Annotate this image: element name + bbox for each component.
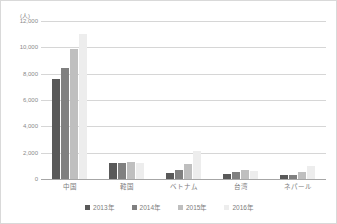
bar (241, 170, 249, 179)
y-axis-tick-label: 6,000 (23, 97, 38, 103)
bar-group (155, 21, 212, 179)
bar (193, 151, 201, 179)
x-axis-category-labels: 中国韓国ベトナム台湾ネパール (41, 181, 326, 191)
x-axis-category-label: 台湾 (212, 181, 269, 191)
legend-item[interactable]: 2015年 (178, 202, 207, 212)
legend-label: 2015年 (186, 202, 207, 212)
x-axis-category-label: 中国 (41, 181, 98, 191)
bar-group (269, 21, 326, 179)
bar-group (98, 21, 155, 179)
legend-label: 2016年 (232, 202, 253, 212)
bar (289, 175, 297, 179)
bar (298, 172, 306, 179)
x-axis-category-label: ベトナム (155, 181, 212, 191)
bar (109, 163, 117, 179)
x-axis-category-label: ネパール (269, 181, 326, 191)
y-axis-tick-label: 0 (35, 176, 38, 182)
bar (307, 166, 315, 179)
legend-item[interactable]: 2014年 (132, 202, 161, 212)
bar (184, 164, 192, 179)
bar (70, 49, 78, 179)
legend-swatch-icon (224, 205, 229, 210)
bar (79, 34, 87, 179)
legend-label: 2013年 (93, 202, 114, 212)
legend-swatch-icon (132, 205, 137, 210)
bar (61, 68, 69, 179)
bar (223, 174, 231, 179)
bar-chart-figure: (人) 02,0004,0006,0008,00010,00012,000 中国… (0, 0, 337, 224)
bar (280, 175, 288, 179)
legend-swatch-icon (178, 205, 183, 210)
y-axis-tick-label: 12,000 (20, 18, 38, 24)
y-axis-tick-label: 4,000 (23, 123, 38, 129)
chart-legend: 2013年2014年2015年2016年 (1, 202, 337, 212)
plot-area: 02,0004,0006,0008,00010,00012,000 (41, 21, 326, 179)
bar-groups (41, 21, 326, 179)
bar (232, 172, 240, 179)
bar (52, 79, 60, 179)
legend-label: 2014年 (140, 202, 161, 212)
y-axis-tick-label: 10,000 (20, 44, 38, 50)
legend-item[interactable]: 2013年 (85, 202, 114, 212)
x-axis-category-label: 韓国 (98, 181, 155, 191)
bar (175, 170, 183, 179)
bar (136, 163, 144, 179)
y-axis-tick-label: 2,000 (23, 150, 38, 156)
axis-line-zero (41, 179, 326, 180)
legend-item[interactable]: 2016年 (224, 202, 253, 212)
bar (118, 163, 126, 179)
bar (250, 171, 258, 179)
y-axis-tick-label: 8,000 (23, 71, 38, 77)
bar-group (212, 21, 269, 179)
bar (127, 162, 135, 179)
legend-swatch-icon (85, 205, 90, 210)
bar (166, 173, 174, 179)
bar-group (41, 21, 98, 179)
